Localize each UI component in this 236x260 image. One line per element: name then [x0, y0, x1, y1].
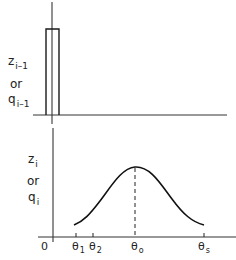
tick-label-zero-main: 0 [41, 240, 48, 253]
thetas-main: θ [198, 240, 205, 253]
thetao-sub: o [139, 246, 144, 255]
theta2-main: θ [89, 240, 96, 253]
tick-label-theta2: θ2 [89, 240, 102, 253]
tick-label-theta1: θ1 [72, 240, 85, 253]
thetas-sub: s [206, 246, 210, 255]
top-ylabel-q-main: q [8, 92, 16, 106]
tick-label-thetao: θo [131, 240, 144, 253]
bottom-ylabel-q: qi [28, 191, 39, 204]
bottom-ylabel-or: or [27, 175, 39, 187]
top-ylabel-z-main: z [8, 54, 14, 68]
thetao-main: θ [131, 240, 138, 253]
top-ylabel-z-sub: i–1 [15, 61, 28, 71]
theta1-sub: 1 [80, 246, 85, 255]
theta1-main: θ [72, 240, 79, 253]
top-ylabel-q: qi–1 [8, 93, 29, 106]
bottom-ylabel-z-sub: i [35, 159, 38, 169]
bell-curve [74, 167, 204, 225]
theta2-sub: 2 [97, 246, 102, 255]
tick-label-thetas: θs [198, 240, 210, 253]
top-panel [33, 2, 227, 124]
bottom-ylabel-q-sub: i [37, 197, 40, 207]
bottom-panel [38, 128, 236, 242]
top-ylabel-z: zi–1 [8, 55, 28, 68]
bottom-ylabel-q-main: q [28, 190, 36, 204]
top-ylabel-or: or [10, 78, 22, 90]
top-ylabel-q-sub: i–1 [17, 99, 30, 109]
bottom-ylabel-z: zi [28, 153, 38, 166]
bottom-ylabel-z-main: z [28, 152, 34, 166]
tick-label-zero: 0 [41, 240, 48, 253]
diagram-canvas [0, 0, 236, 260]
